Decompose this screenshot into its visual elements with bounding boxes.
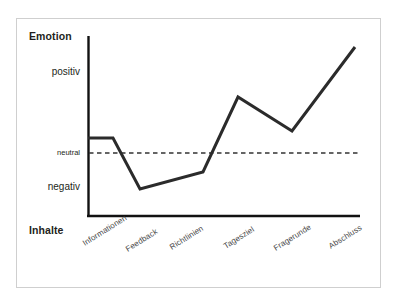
y-tick-positiv: positiv xyxy=(24,66,80,77)
y-axis-title: Emotion xyxy=(29,30,72,42)
y-tick-negativ: negativ xyxy=(24,181,80,192)
y-tick-neutral: neutral xyxy=(24,148,80,157)
emotion-data-line xyxy=(88,47,355,189)
x-axis-title: Inhalte xyxy=(29,224,64,236)
